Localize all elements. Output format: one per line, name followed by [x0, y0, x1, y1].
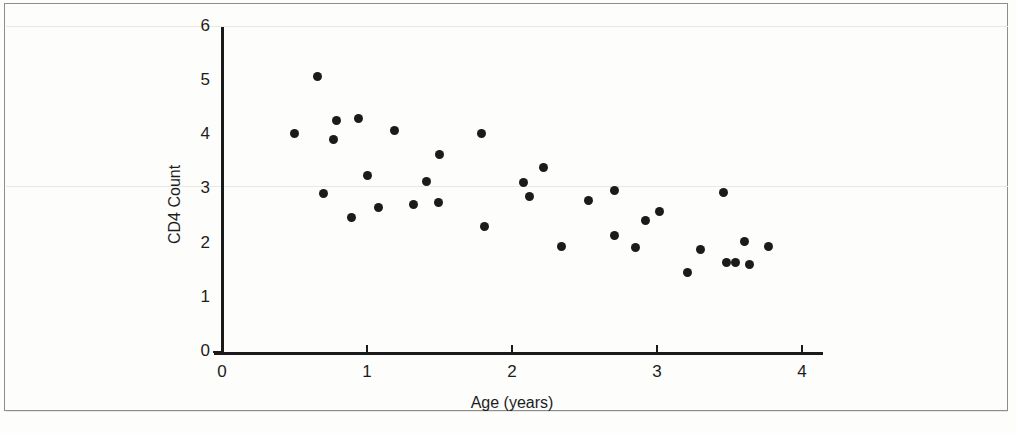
- y-axis-tick-label: 6: [184, 16, 210, 36]
- data-point: [557, 242, 566, 251]
- scatter-plot-figure: 012340123456Age (years)CD4 Count: [0, 0, 1016, 433]
- x-axis-tick-label: 0: [207, 362, 237, 382]
- y-axis-tick-label: 2: [184, 233, 210, 253]
- x-axis-tick: [366, 345, 368, 354]
- y-axis-tick-label: 5: [184, 70, 210, 90]
- data-point: [584, 196, 593, 205]
- x-axis-tick-label: 2: [497, 362, 527, 382]
- data-point: [332, 116, 341, 125]
- y-axis-tick-label: 3: [184, 178, 210, 198]
- y-axis-line: [221, 27, 224, 355]
- x-axis-tick-label: 3: [642, 362, 672, 382]
- data-point: [390, 126, 399, 135]
- data-point: [722, 258, 731, 267]
- data-point: [363, 171, 372, 180]
- x-axis-title: Age (years): [392, 394, 632, 412]
- data-point: [480, 222, 489, 231]
- scan-artifact-line: [6, 186, 1008, 187]
- x-axis-tick: [801, 345, 803, 354]
- y-axis-tick-label: 1: [184, 287, 210, 307]
- data-point: [641, 216, 650, 225]
- data-point: [354, 114, 363, 123]
- data-point: [477, 129, 486, 138]
- data-point: [422, 177, 431, 186]
- y-axis-tick-label: 0: [184, 341, 210, 361]
- data-point: [740, 237, 749, 246]
- data-point: [347, 213, 356, 222]
- x-axis-tick-label: 4: [787, 362, 817, 382]
- data-point: [434, 198, 443, 207]
- data-point: [745, 260, 754, 269]
- data-point: [290, 129, 299, 138]
- data-point: [610, 231, 619, 240]
- data-point: [374, 203, 383, 212]
- x-axis-tick: [511, 345, 513, 354]
- data-point: [719, 188, 728, 197]
- y-axis-tick-label: 4: [184, 124, 210, 144]
- data-point: [525, 192, 534, 201]
- data-point: [313, 72, 322, 81]
- plot-area: 012340123456Age (years)CD4 Count: [0, 0, 1016, 433]
- data-point: [610, 186, 619, 195]
- x-axis-tick: [656, 345, 658, 354]
- data-point: [329, 135, 338, 144]
- y-axis-title: CD4 Count: [166, 164, 184, 243]
- y-axis-zero-tick: [213, 351, 221, 353]
- data-point: [409, 200, 418, 209]
- x-axis-tick-label: 1: [352, 362, 382, 382]
- data-point: [731, 258, 740, 267]
- data-point: [539, 163, 548, 172]
- data-point: [655, 207, 664, 216]
- data-point: [435, 150, 444, 159]
- data-point: [631, 243, 640, 252]
- data-point: [764, 242, 773, 251]
- x-axis-line: [214, 352, 823, 355]
- x-axis-tick: [221, 345, 223, 354]
- data-point: [519, 178, 528, 187]
- scan-artifact-line: [6, 26, 1008, 27]
- data-point: [683, 268, 692, 277]
- data-point: [696, 245, 705, 254]
- data-point: [319, 189, 328, 198]
